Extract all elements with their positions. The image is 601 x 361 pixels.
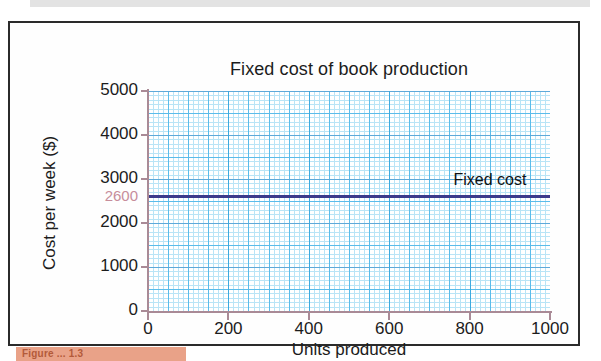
chart-title: Fixed cost of book production xyxy=(147,59,551,80)
x-axis-tick-label: 1000 xyxy=(520,319,580,339)
x-axis-title: Units produced xyxy=(148,340,550,360)
plot-area: Fixed cost xyxy=(148,91,550,311)
y-axis-tick xyxy=(141,266,148,268)
page-scan-artifact-top xyxy=(30,0,590,7)
y-axis-tick-label: 0 xyxy=(78,300,138,320)
figure-caption-text: Figure ... 1.3 xyxy=(22,348,192,359)
x-axis-line xyxy=(147,311,552,313)
y-axis-title: Cost per week ($) xyxy=(40,103,60,303)
y-axis-tick-label: 5000 xyxy=(78,80,138,100)
y-axis-tick xyxy=(141,178,148,180)
series-line-fixed-cost xyxy=(148,195,550,198)
y-axis-tick xyxy=(141,90,148,92)
y-axis-line xyxy=(147,89,149,313)
y-axis-tick-label: 3000 xyxy=(78,168,138,188)
figure-frame: Fixed cost of book production Fixed cost… xyxy=(8,21,580,346)
x-axis-tick-label: 600 xyxy=(359,319,419,339)
y-axis-tick xyxy=(141,134,148,136)
y-axis-tick-label: 2000 xyxy=(78,212,138,232)
y-axis-tick-label: 1000 xyxy=(78,256,138,276)
x-axis-tick-label: 0 xyxy=(118,319,178,339)
x-axis-tick-label: 800 xyxy=(440,319,500,339)
y-axis-tick xyxy=(141,310,148,312)
grid-decade-lines xyxy=(148,91,550,311)
y-axis-tick xyxy=(141,222,148,224)
x-axis-tick-label: 200 xyxy=(198,319,258,339)
y-axis-tick-label: 4000 xyxy=(78,124,138,144)
x-axis-tick-label: 400 xyxy=(279,319,339,339)
y-axis-highlighted-value: 2600 xyxy=(70,187,138,204)
series-label-fixed-cost: Fixed cost xyxy=(454,171,527,189)
